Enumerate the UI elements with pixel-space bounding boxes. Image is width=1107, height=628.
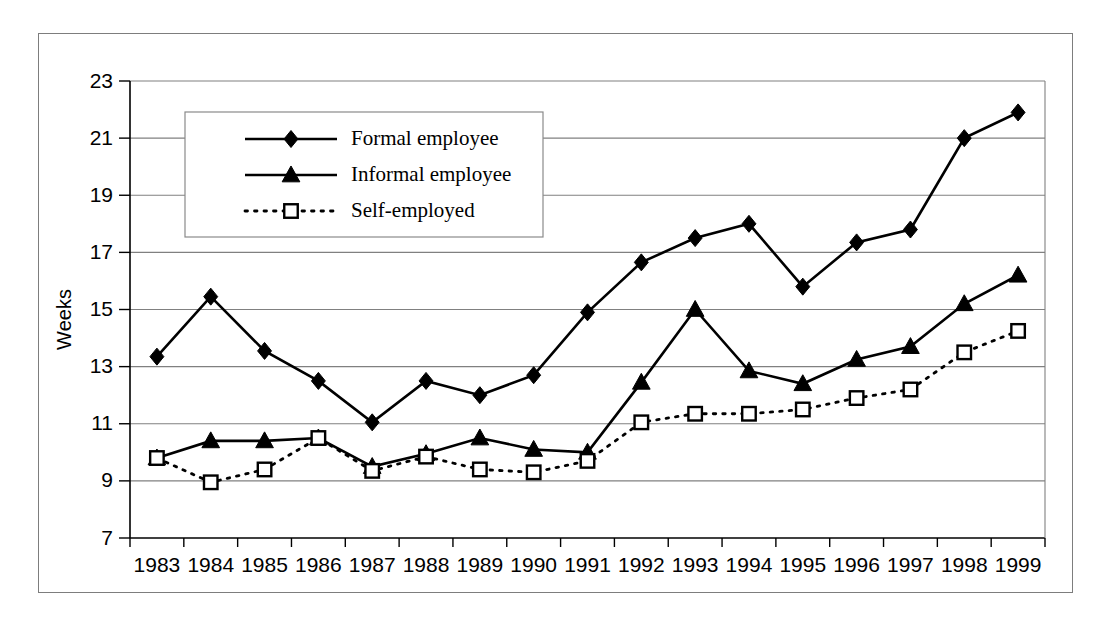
x-tick-label-1993: 1993 xyxy=(672,553,719,576)
x-tick-label-1997: 1997 xyxy=(887,553,934,576)
series-formal-employee-marker-5 xyxy=(419,372,433,389)
series-informal-employee-marker-10 xyxy=(686,300,704,316)
x-tick-label-1998: 1998 xyxy=(941,553,988,576)
chart-page: 7911131517192123198319841985198619871988… xyxy=(0,0,1107,628)
legend-label-informal-employee: Informal employee xyxy=(351,162,511,186)
series-formal-employee-marker-4 xyxy=(365,414,379,431)
x-tick-label-1991: 1991 xyxy=(564,553,611,576)
y-tick-label-9: 9 xyxy=(101,468,113,491)
series-informal-employee-marker-6 xyxy=(471,429,489,445)
x-tick-label-1996: 1996 xyxy=(833,553,880,576)
series-informal-employee-marker-14 xyxy=(902,338,920,354)
series-self-employed-marker-14 xyxy=(904,383,918,397)
series-formal-employee-marker-6 xyxy=(473,387,487,404)
series-informal-employee-marker-16 xyxy=(1009,266,1027,282)
x-tick-label-1994: 1994 xyxy=(726,553,773,576)
series-self-employed-marker-7 xyxy=(527,466,541,480)
y-tick-label-19: 19 xyxy=(90,183,113,206)
series-self-employed-marker-4 xyxy=(365,464,379,478)
y-tick-label-13: 13 xyxy=(90,354,113,377)
series-self-employed-marker-8 xyxy=(581,454,595,468)
series-self-employed-marker-11 xyxy=(742,407,756,421)
x-tick-label-1992: 1992 xyxy=(618,553,665,576)
series-self-employed-marker-12 xyxy=(796,403,810,417)
x-tick-label-1995: 1995 xyxy=(779,553,826,576)
series-self-employed-marker-0 xyxy=(150,451,164,465)
x-tick-label-1999: 1999 xyxy=(995,553,1042,576)
legend-label-formal-employee: Formal employee xyxy=(351,126,499,150)
series-self-employed-marker-2 xyxy=(258,463,272,477)
y-tick-label-15: 15 xyxy=(90,297,113,320)
x-tick-label-1985: 1985 xyxy=(241,553,288,576)
series-self-employed-marker-3 xyxy=(312,431,326,445)
y-tick-label-17: 17 xyxy=(90,240,113,263)
x-tick-label-1989: 1989 xyxy=(456,553,503,576)
y-tick-label-21: 21 xyxy=(90,126,113,149)
x-tick-label-1990: 1990 xyxy=(510,553,557,576)
chart-outer-frame: 7911131517192123198319841985198619871988… xyxy=(38,33,1073,593)
series-self-employed-marker-13 xyxy=(850,391,864,405)
series-formal-employee-marker-10 xyxy=(688,230,702,247)
series-self-employed-marker-10 xyxy=(688,407,702,421)
y-axis-title: Weeks xyxy=(53,289,75,350)
series-formal-employee-marker-3 xyxy=(311,372,325,389)
legend-swatch-self-employed-marker-icon xyxy=(284,204,298,218)
y-tick-label-23: 23 xyxy=(90,69,113,92)
legend-label-self-employed: Self-employed xyxy=(351,198,475,222)
x-tick-label-1986: 1986 xyxy=(295,553,342,576)
line-chart: 7911131517192123198319841985198619871988… xyxy=(39,34,1074,594)
series-self-employed-marker-16 xyxy=(1011,324,1025,338)
x-tick-label-1983: 1983 xyxy=(134,553,181,576)
x-tick-label-1987: 1987 xyxy=(349,553,396,576)
series-self-employed-marker-6 xyxy=(473,463,487,477)
series-formal-employee-marker-16 xyxy=(1011,104,1025,121)
y-tick-label-7: 7 xyxy=(101,526,113,549)
series-formal-employee-marker-13 xyxy=(850,234,864,251)
series-self-employed-marker-9 xyxy=(635,416,649,430)
series-informal-employee-marker-15 xyxy=(955,295,973,311)
x-tick-label-1984: 1984 xyxy=(187,553,234,576)
series-self-employed-marker-15 xyxy=(958,346,972,360)
x-tick-label-1988: 1988 xyxy=(403,553,450,576)
y-tick-label-11: 11 xyxy=(91,411,113,434)
series-self-employed-marker-1 xyxy=(204,476,218,490)
series-self-employed-marker-5 xyxy=(419,450,433,464)
